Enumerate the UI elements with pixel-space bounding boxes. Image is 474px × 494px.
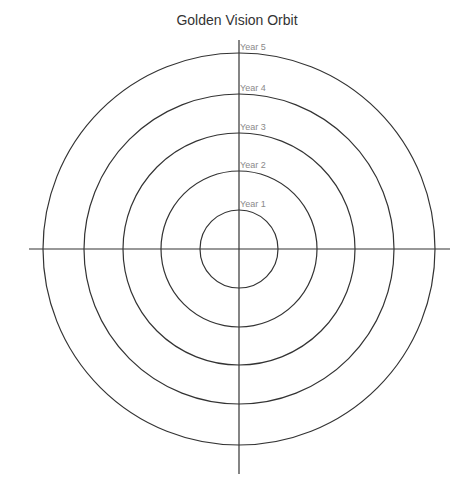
ring-label-2: Year 2 [240,160,266,170]
ring-label-5: Year 5 [240,42,266,52]
ring-label-3: Year 3 [240,122,266,132]
ring-label-1: Year 1 [240,199,266,209]
orbit-diagram: Year 1Year 2Year 3Year 4Year 5 [0,0,474,494]
ring-label-4: Year 4 [240,83,266,93]
